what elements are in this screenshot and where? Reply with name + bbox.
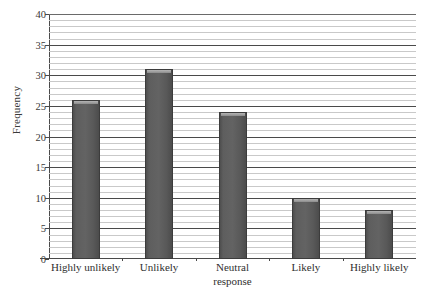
y-axis-tick-labels: 0510152025303540 [0,14,46,259]
x-axis-tick-label-line: Highly unlikely [51,261,120,273]
y-axis-tick-label: 35 [4,39,46,50]
y-axis-tick-label: 5 [4,223,46,234]
y-axis-tick-label: 0 [4,254,46,265]
x-axis-tick-label-line: Neutral [216,261,249,273]
y-axis-tick-label: 15 [4,162,46,173]
bar [292,198,320,259]
bars-layer [49,14,416,259]
y-axis-tick-label: 10 [4,192,46,203]
bar [365,210,393,259]
bar [72,100,100,259]
bar-chart: Frequency 0510152025303540 Highly unlike… [0,0,429,296]
x-axis-tick-label: Likely [292,261,321,275]
bar [219,112,247,259]
x-axis-tick-label-line: response [213,275,252,289]
bar-top-highlight [74,101,98,104]
x-axis-tick-label: Highly likely [350,261,408,275]
x-axis-tick-label: Highly unlikely [51,261,120,275]
x-axis-tick-label: Neutralresponse [213,261,252,288]
x-axis-tick-label-line: Unlikely [140,261,179,273]
bar-top-highlight [147,70,171,73]
bar [145,69,173,259]
plot-area [49,14,416,259]
y-axis-tick-label: 30 [4,70,46,81]
y-axis-tick-mark [45,259,49,260]
y-axis-tick-label: 40 [4,9,46,20]
x-axis-tick-label: Unlikely [140,261,179,275]
x-axis-tick-labels: Highly unlikelyUnlikelyNeutralresponseLi… [49,261,416,296]
bar-top-highlight [294,199,318,202]
x-axis-tick-label-line: Likely [292,261,321,273]
x-axis-tick-label-line: Highly likely [350,261,408,273]
y-axis-tick-label: 20 [4,131,46,142]
bar-top-highlight [221,113,245,116]
y-axis-tick-label: 25 [4,100,46,111]
bar-top-highlight [367,211,391,214]
